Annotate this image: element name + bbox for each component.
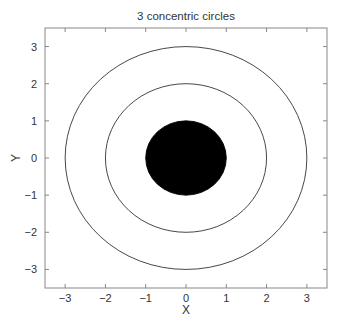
y-tick-label: 3 [31,41,37,53]
x-axis-label: X [182,303,190,317]
x-tick-label: −3 [59,292,72,304]
plot-area [65,47,307,270]
y-tick-label: −3 [24,263,37,275]
y-tick-label: 1 [31,115,37,127]
x-tick-label: 2 [264,292,270,304]
x-tick-label: −2 [99,292,112,304]
chart-figure: 3 concentric circles −3−2−10123 −3−2−101… [0,0,341,330]
x-tick-label: 1 [223,292,229,304]
y-tick-label: 2 [31,78,37,90]
y-tick-label: 0 [31,152,37,164]
y-axis-label: Y [9,154,23,162]
circle-r1 [146,121,227,195]
x-tick-label: 3 [304,292,310,304]
y-tick-label: −1 [24,189,37,201]
x-tick-label: −1 [139,292,152,304]
chart-title: 3 concentric circles [137,10,235,22]
y-tick-label: −2 [24,226,37,238]
